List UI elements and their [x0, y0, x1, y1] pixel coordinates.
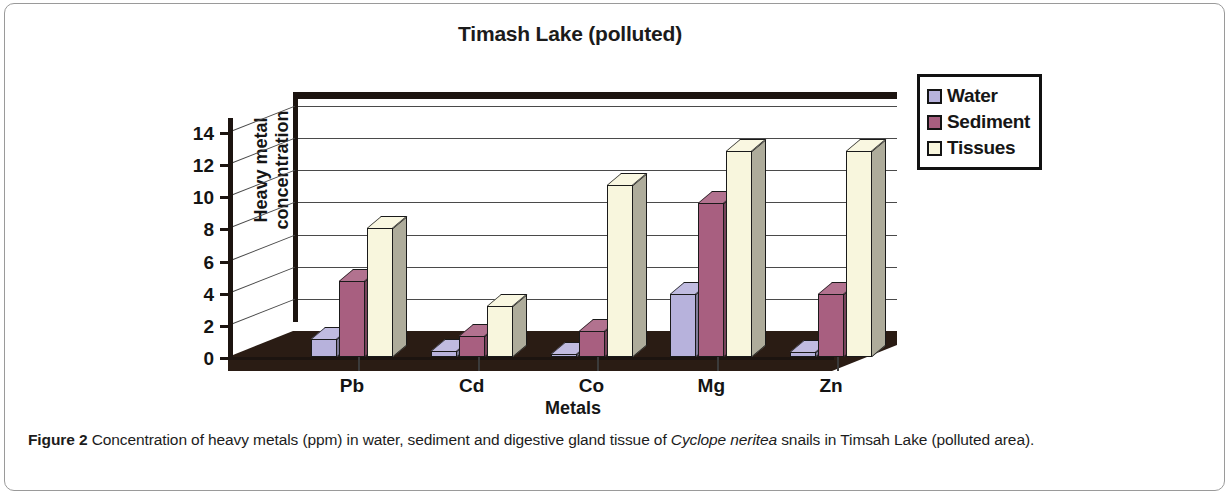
- bar-side-face: [752, 140, 766, 357]
- bar-pb-sediment: [339, 281, 365, 357]
- bar-front-face: [726, 151, 752, 357]
- caption-label: Figure 2: [28, 431, 88, 448]
- x-axis-label-zn: Zn: [786, 375, 876, 397]
- bar-zn-tissues: [846, 151, 872, 357]
- bar-front-face: [818, 294, 844, 357]
- bar-front-face: [790, 352, 816, 357]
- bar-mg-water: [670, 294, 696, 357]
- legend-swatch-water: [927, 89, 942, 104]
- y-axis-tick: 14: [220, 132, 229, 135]
- legend-label-tissues: Tissues: [947, 137, 1015, 159]
- x-axis-label-mg: Mg: [666, 375, 756, 397]
- bar-front-face: [339, 281, 365, 357]
- bar-pb-tissues: [367, 228, 393, 357]
- caption-species-name: Cyclope neritea: [671, 431, 777, 448]
- x-axis-tick: [478, 357, 480, 371]
- bar-front-face: [459, 336, 485, 357]
- x-axis-label-cd: Cd: [427, 375, 517, 397]
- bar-cd-tissues: [487, 306, 513, 357]
- chart-legend: Water Sediment Tissues: [917, 74, 1042, 170]
- bar-front-face: [431, 351, 457, 357]
- y-axis-line: [228, 118, 233, 357]
- y-axis-tick: 4: [220, 293, 229, 296]
- x-axis-label-co: Co: [547, 375, 637, 397]
- gridline: [298, 170, 897, 171]
- y-axis-tick-label: 6: [203, 251, 214, 275]
- bar-mg-sediment: [698, 203, 724, 357]
- bar-co-sediment: [579, 331, 605, 357]
- bar-zn-sediment: [818, 294, 844, 357]
- gridline: [298, 106, 897, 107]
- legend-item-sediment[interactable]: Sediment: [927, 109, 1030, 135]
- bar-side-face: [633, 173, 647, 357]
- y-axis-tick: 6: [220, 261, 229, 264]
- figure-page: Timash Lake (polluted) Water Sediment Ti…: [0, 0, 1230, 497]
- y-axis-tick-label: 0: [203, 347, 214, 371]
- caption-text-before: Concentration of heavy metals (ppm) in w…: [88, 431, 671, 448]
- legend-item-tissues[interactable]: Tissues: [927, 135, 1030, 161]
- gridline-depth: [228, 202, 295, 229]
- plot-left-wall: [228, 92, 298, 357]
- legend-swatch-tissues: [927, 141, 942, 156]
- gridline-depth: [228, 170, 295, 197]
- gridline-depth: [228, 106, 295, 133]
- bar-front-face: [579, 331, 605, 357]
- bar-co-tissues: [607, 185, 633, 357]
- figure-caption: Figure 2 Concentration of heavy metals (…: [28, 428, 1200, 451]
- gridline-depth: [228, 298, 295, 325]
- bar-front-face: [846, 151, 872, 357]
- bar-front-face: [551, 354, 577, 357]
- legend-swatch-sediment: [927, 115, 942, 130]
- chart-title: Timash Lake (polluted): [0, 22, 1140, 46]
- bar-front-face: [670, 294, 696, 357]
- x-axis-label-pb: Pb: [307, 375, 397, 397]
- bar-co-water: [551, 354, 577, 357]
- bar-cd-water: [431, 351, 457, 357]
- x-axis-line: [228, 357, 834, 360]
- legend-label-sediment: Sediment: [947, 111, 1030, 133]
- figure-chart: Timash Lake (polluted) Water Sediment Ti…: [0, 0, 1230, 415]
- y-axis-tick-label: 4: [203, 283, 214, 307]
- bar-front-face: [487, 306, 513, 357]
- legend-label-water: Water: [947, 85, 998, 107]
- x-axis-tick: [717, 357, 719, 371]
- bar-front-face: [311, 339, 337, 357]
- y-axis-tick: 12: [220, 164, 229, 167]
- bar-mg-tissues: [726, 151, 752, 357]
- gridline-depth: [228, 234, 295, 261]
- y-axis-tick-label: 8: [203, 218, 214, 242]
- y-axis-tick-label: 14: [193, 122, 214, 146]
- y-axis-tick-label: 10: [193, 186, 214, 210]
- y-axis-tick: 8: [220, 228, 229, 231]
- y-axis-tick: 2: [220, 325, 229, 328]
- gridline-depth: [228, 138, 295, 165]
- x-axis-tick: [837, 357, 839, 371]
- gridline: [298, 202, 897, 203]
- gridline-depth: [228, 266, 295, 293]
- x-axis-tick: [597, 357, 599, 371]
- x-axis-title: Metals: [228, 398, 918, 419]
- bar-side-face: [872, 140, 886, 357]
- caption-text-after: snails in Timsah Lake (polluted area).: [777, 431, 1034, 448]
- y-axis-tick-label: 2: [203, 315, 214, 339]
- bar-side-face: [393, 217, 407, 357]
- bar-front-face: [607, 185, 633, 357]
- bar-zn-water: [790, 352, 816, 357]
- bar-front-face: [698, 203, 724, 357]
- y-axis-tick-label: 12: [193, 154, 214, 178]
- bar-pb-water: [311, 339, 337, 357]
- gridline: [298, 138, 897, 139]
- y-axis-tick: 10: [220, 196, 229, 199]
- bar-cd-sediment: [459, 336, 485, 357]
- x-axis-tick: [358, 357, 360, 371]
- bar-front-face: [367, 228, 393, 357]
- legend-item-water[interactable]: Water: [927, 83, 1030, 109]
- plot-area: 02468101214 PbCdCoMgZn: [228, 92, 918, 382]
